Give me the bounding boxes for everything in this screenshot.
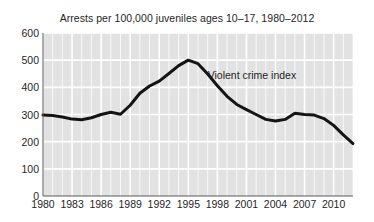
x-tick-label: 2010 — [322, 198, 345, 210]
series-annotation-violent-crime-index: Violent crime index — [208, 69, 297, 81]
series-path — [43, 60, 353, 143]
y-tick-label: 600 — [21, 27, 39, 39]
x-axis: 1980198319861989199219951998200120042007… — [43, 198, 353, 216]
y-tick-label: 500 — [21, 54, 39, 66]
x-tick-label: 2007 — [293, 198, 316, 210]
x-tick-label: 1989 — [119, 198, 142, 210]
x-tick-label: 1980 — [31, 198, 54, 210]
x-tick-label: 1998 — [206, 198, 229, 210]
x-tick-label: 1986 — [89, 198, 112, 210]
x-tick-label: 1983 — [60, 198, 83, 210]
y-tick-label: 200 — [21, 136, 39, 148]
x-tick-label: 2001 — [235, 198, 258, 210]
chart-title: Arrests per 100,000 juveniles ages 10–17… — [0, 12, 374, 24]
violent-crime-index-chart: Arrests per 100,000 juveniles ages 10–17… — [0, 0, 374, 222]
y-tick-label: 300 — [21, 109, 39, 121]
y-tick-label: 100 — [21, 163, 39, 175]
y-tick-label: 400 — [21, 81, 39, 93]
y-axis: 0100200300400500600 — [0, 33, 39, 196]
x-tick-label: 1995 — [177, 198, 200, 210]
x-tick-label: 2004 — [264, 198, 287, 210]
x-tick-label: 1992 — [148, 198, 171, 210]
plot-area — [43, 33, 353, 196]
series-line-violent-crime-index — [43, 33, 353, 196]
